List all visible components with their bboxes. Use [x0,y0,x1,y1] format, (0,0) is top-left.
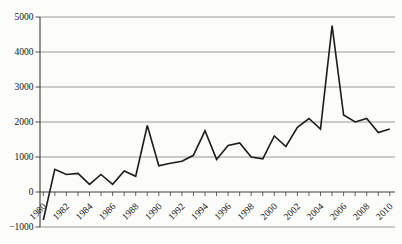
x-tick-label-1998: 1998 [236,201,257,222]
x-tick-label-1986: 1986 [97,201,118,222]
x-tick-label-1990: 1990 [143,201,164,222]
x-tick-label-2002: 2002 [282,201,303,222]
y-tick-label-2000: 2000 [15,117,34,127]
x-tick-label-2000: 2000 [259,201,280,222]
line-chart-figure: 500040003000200010000−100019801982198419… [0,0,402,244]
x-tick-label-2010: 2010 [374,201,395,222]
x-tick-label-1988: 1988 [120,201,141,222]
x-tick-label-1984: 1984 [74,201,95,222]
x-tick-label-2008: 2008 [351,201,372,222]
annual-value-series [43,26,390,220]
y-tick-label-3000: 3000 [15,82,34,92]
y-tick-label-1000: 1000 [15,152,34,162]
x-tick-label-1996: 1996 [213,201,234,222]
y-tick-label-5000: 5000 [15,12,34,22]
x-tick-label-2006: 2006 [328,201,349,222]
x-tick-label-1982: 1982 [51,201,72,222]
x-tick-label-1994: 1994 [189,201,210,222]
y-tick-label--1000: −1000 [9,222,34,232]
x-tick-label-1992: 1992 [166,201,187,222]
line-chart-svg: 500040003000200010000−100019801982198419… [0,0,402,244]
y-tick-label-4000: 4000 [15,47,34,57]
y-tick-label-0: 0 [29,187,34,197]
x-tick-label-2004: 2004 [305,201,326,222]
